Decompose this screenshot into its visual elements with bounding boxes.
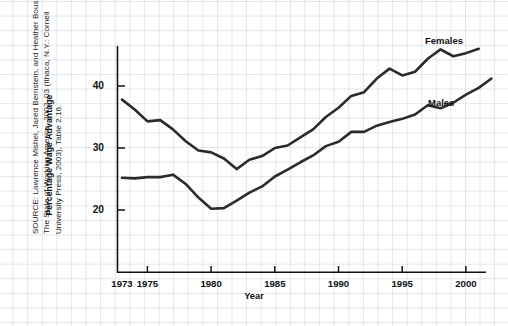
x-tick-label-1990: 1990 [319, 278, 359, 289]
x-tick-label-1980: 1980 [191, 278, 231, 289]
x-tick-label-2000: 2000 [446, 278, 486, 289]
x-axis-title: Year [0, 291, 508, 301]
series-line-females [122, 49, 479, 169]
series-label-males: Males [428, 97, 454, 108]
x-tick-label-1985: 1985 [255, 278, 295, 289]
x-tick-label-1995: 1995 [382, 278, 422, 289]
chart-figure: Percentage Wage Advantage 40 30 20 1973 … [0, 0, 508, 326]
x-tick-label-1975: 1975 [127, 278, 167, 289]
series-label-females: Females [425, 35, 463, 46]
